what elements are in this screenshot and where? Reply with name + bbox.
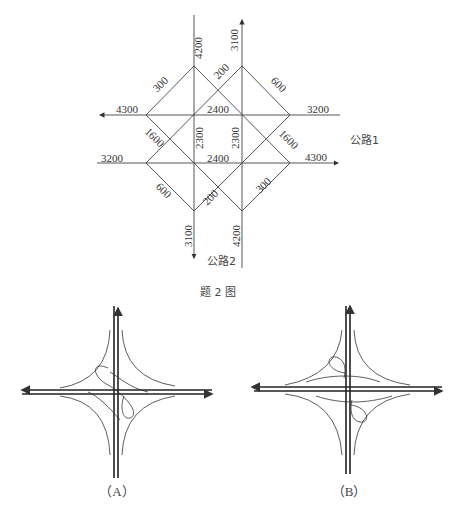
label-vert-right-mid: 2300 [229,127,241,150]
a-ramp-nw [60,330,110,388]
b-loop-bottom [316,396,392,422]
b-loop-top [306,357,380,382]
road2-label: 公路2 [207,255,236,268]
a-ramp-ne [122,330,175,386]
b-ramp-sw [285,394,342,455]
option-a-label: （A） [99,484,134,499]
label-diag-se-right: 1600 [277,127,301,151]
label-north-out: 3100 [228,29,240,52]
option-b-diagram: （B） [252,306,442,499]
label-south-out: 3100 [182,225,194,248]
flow-diagram: 4200 3100 4300 3200 3200 4300 3100 4200 … [97,15,379,299]
label-east-in: 3200 [307,103,330,115]
label-west-out: 4300 [116,103,139,115]
b-ramp-se [354,394,410,455]
figure-caption: 题 2 图 [200,286,236,299]
label-east-out: 4300 [305,151,328,163]
label-west-in: 3200 [101,152,124,164]
label-vert-left-mid: 2300 [193,127,205,150]
label-diag-nw-top: 300 [150,74,171,95]
option-b-label: （B） [332,484,367,499]
label-diag-ne-inner: 200 [211,61,232,82]
label-diag-sc-inner: 200 [200,187,221,208]
label-south-in: 4200 [230,225,242,248]
label-horiz-bot-mid: 2400 [207,152,230,164]
label-diag-se-bottom: 300 [253,175,274,196]
road1-label: 公路1 [350,134,379,147]
figure-canvas: 4200 3100 4300 3200 3200 4300 3100 4200 … [0,0,464,506]
label-diag-sw-bottom: 600 [154,180,175,201]
option-a-diagram: （A） [22,306,212,499]
a-ramp-sw [60,396,110,455]
label-horiz-top-mid: 2400 [207,103,230,115]
b-ramp-ne [354,330,410,385]
label-diag-ne-top: 600 [269,74,290,95]
label-north-in: 4200 [192,37,204,60]
